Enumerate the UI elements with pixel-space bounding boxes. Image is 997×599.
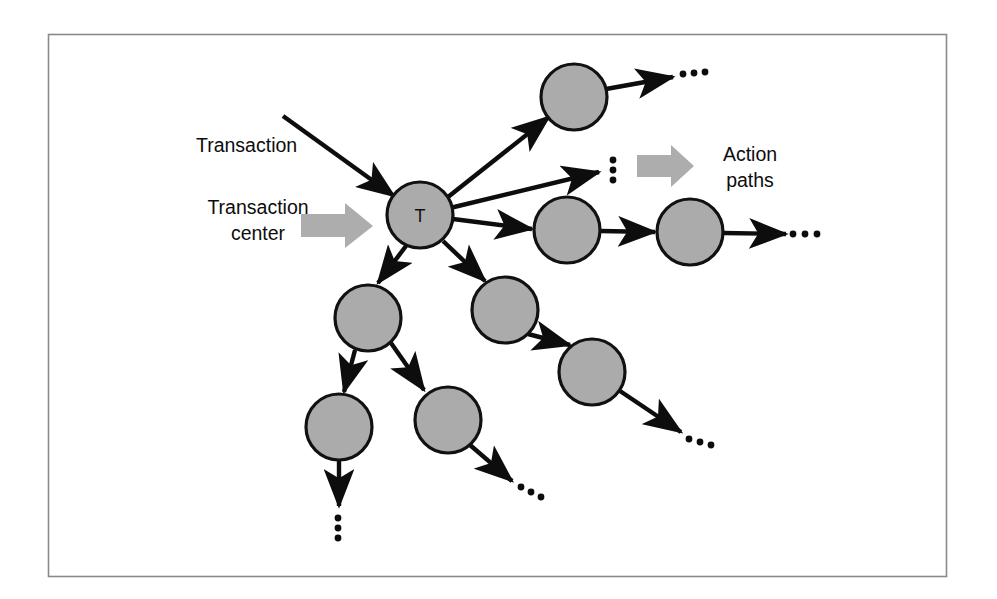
label-transaction-center-line2: center [231, 222, 286, 244]
node-lower-right-lower[interactable] [559, 339, 625, 405]
node-right-middle[interactable] [534, 197, 600, 263]
ellipsis-vertical-center-right [610, 157, 617, 184]
label-transaction: Transaction [196, 134, 297, 156]
node-lower-left-upper[interactable] [335, 285, 401, 351]
node-bottom-left[interactable] [306, 394, 372, 460]
node-bottom-middle[interactable] [415, 387, 481, 453]
ellipsis-horizontal-far-right [790, 231, 821, 238]
label-transaction-center-line1: Transaction [207, 196, 308, 218]
node-top-right[interactable] [541, 64, 607, 130]
transaction-center-diagram: T [0, 0, 997, 599]
ellipsis-vertical-bottom-left [335, 515, 342, 542]
node-center-label: T [415, 206, 426, 226]
edge-node-right-to-node-far-right [600, 231, 655, 232]
figure-canvas: T [0, 0, 997, 599]
edge-node-far-right-to-ellipsis [723, 233, 786, 234]
node-lower-right-upper[interactable] [472, 277, 538, 343]
label-action-paths-line2: paths [726, 169, 774, 191]
node-far-right-middle[interactable] [657, 199, 723, 265]
label-action-paths-line1: Action [723, 143, 777, 165]
